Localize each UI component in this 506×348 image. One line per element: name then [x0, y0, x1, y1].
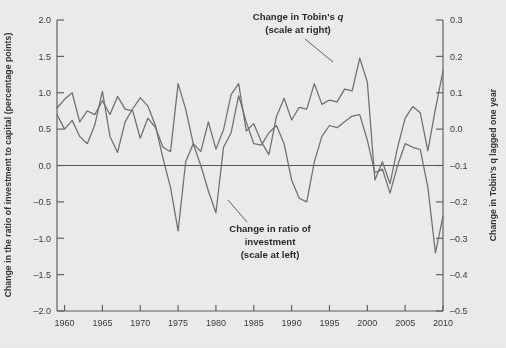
x-tick-label: 1990 — [282, 318, 302, 328]
y2-axis-title: Change in Tobin's q lagged one year — [488, 88, 498, 241]
annotation-tobins-q-emphasis: q — [337, 11, 343, 22]
chart-background — [0, 0, 506, 348]
y-tick-label: 1.5 — [38, 52, 51, 62]
y-tick-label: 2.0 — [38, 15, 51, 25]
annotation-tobins-q-line2: (scale at right) — [265, 24, 331, 35]
y-tick-label: –2.0 — [33, 306, 51, 316]
economics-line-chart: –2.0–1.5–1.0–0.50.00.51.01.52.0–0.5–0.4–… — [0, 0, 506, 348]
annotation-investment-line2: investment — [245, 236, 296, 247]
y2-tick-label: 0.0 — [450, 124, 463, 134]
x-tick-label: 1995 — [319, 318, 339, 328]
x-tick-label: 1965 — [92, 318, 112, 328]
y-tick-label: 0.0 — [38, 161, 51, 171]
y2-tick-label: –0.4 — [450, 270, 468, 280]
y-tick-label: –0.5 — [33, 197, 51, 207]
x-tick-label: 1975 — [168, 318, 188, 328]
svg-text:Change in Tobin's q: Change in Tobin's q — [253, 11, 344, 22]
y2-tick-label: –0.5 — [450, 306, 468, 316]
x-tick-label: 2005 — [395, 318, 415, 328]
y-tick-label: –1.0 — [33, 234, 51, 244]
x-tick-label: 1980 — [206, 318, 226, 328]
x-tick-label: 2000 — [357, 318, 377, 328]
x-tick-label: 1960 — [55, 318, 75, 328]
y2-tick-label: 0.2 — [450, 52, 463, 62]
x-tick-label: 1985 — [244, 318, 264, 328]
y-axis-title: Change in the ratio of investment to cap… — [3, 33, 13, 298]
y-tick-label: –1.5 — [33, 270, 51, 280]
page-footer-cut — [0, 339, 506, 348]
y2-tick-label: 0.1 — [450, 88, 463, 98]
annotation-investment-line1: Change in ratio of — [229, 223, 311, 234]
y2-tick-label: 0.3 — [450, 15, 463, 25]
annotation-investment-line3: (scale at left) — [241, 249, 300, 260]
y2-tick-label: –0.2 — [450, 197, 468, 207]
annotation-tobins-q-line1: Change in Tobin's — [253, 11, 338, 22]
y2-tick-label: –0.1 — [450, 161, 468, 171]
y-tick-label: 1.0 — [38, 88, 51, 98]
y-tick-label: 0.5 — [38, 124, 51, 134]
chart-figure: –2.0–1.5–1.0–0.50.00.51.01.52.0–0.5–0.4–… — [0, 0, 506, 348]
y2-tick-label: –0.3 — [450, 234, 468, 244]
x-tick-label: 2010 — [433, 318, 453, 328]
x-tick-label: 1970 — [130, 318, 150, 328]
